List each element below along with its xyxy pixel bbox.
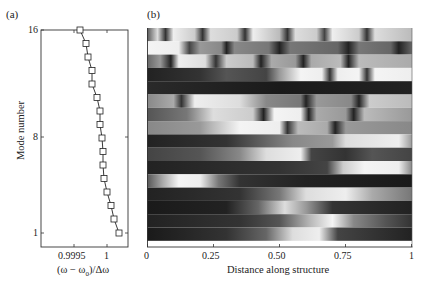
heatmap-row-mode-9	[147, 121, 412, 134]
heatmap-row-mode-2	[147, 214, 412, 227]
heatmap-row-mode-13	[147, 68, 412, 81]
panel-a-xtick-1: 1	[104, 250, 109, 261]
heatmap-rows	[147, 28, 412, 241]
panel-a-x-axis-title: (ω − ω0)/Δω	[57, 264, 109, 278]
panel-a-xlabel-tail: )/Δω	[89, 264, 109, 275]
panel-a-xlabel-main: (ω − ω	[57, 264, 86, 275]
panel-b-xtick-050: 0.50	[268, 250, 286, 261]
heatmap-row-mode-7	[147, 148, 412, 161]
heatmap-row-mode-8	[147, 134, 412, 147]
heatmap-row-mode-4	[147, 188, 412, 201]
panel-a-xtick-09995: 0.9995	[58, 250, 86, 261]
heatmap-row-mode-15	[147, 41, 412, 54]
panel-b-xtick-025: 0.25	[202, 250, 220, 261]
panel-b-xtick-1: 1	[409, 250, 414, 261]
panel-b-heatmap	[147, 28, 413, 250]
heatmap-row-mode-16	[147, 28, 412, 41]
panel-b-label: (b)	[147, 8, 160, 20]
heatmap-row-mode-1	[147, 228, 412, 241]
panel-b-xtick-075: 0.75	[334, 250, 352, 261]
heatmap-row-mode-6	[147, 161, 412, 174]
heatmap-row-mode-3	[147, 201, 412, 214]
heatmap-row-mode-11	[147, 95, 412, 108]
heatmap-row-mode-5	[147, 174, 412, 187]
panel-a-plot	[0, 0, 140, 260]
panel-b-xtick-0: 0	[144, 250, 149, 261]
heatmap-row-mode-10	[147, 108, 412, 121]
panel-a-series	[77, 27, 122, 236]
panel-b-x-axis-title: Distance along structure	[227, 264, 329, 275]
heatmap-row-mode-14	[147, 55, 412, 68]
heatmap-row-mode-12	[147, 81, 412, 94]
